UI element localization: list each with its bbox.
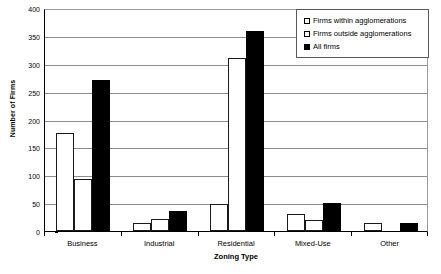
legend-item: All firms — [304, 40, 423, 53]
legend-label: Firms within agglomerations — [313, 17, 406, 25]
legend-swatch-icon — [304, 44, 310, 50]
bar — [400, 223, 418, 231]
bar — [133, 223, 151, 231]
bar — [92, 80, 110, 231]
legend-item: Firms outside agglomerations — [304, 27, 423, 40]
x-tick-label: Business — [67, 239, 97, 248]
bar — [169, 211, 187, 231]
legend-item: Firms within agglomerations — [304, 14, 423, 27]
bar — [56, 133, 74, 231]
x-tick-label: Mixed-Use — [295, 239, 331, 248]
bar — [228, 58, 246, 231]
legend-label: All firms — [313, 43, 340, 51]
y-tick-label: 200 — [14, 117, 40, 124]
x-tick-mark — [198, 232, 199, 236]
bar — [210, 204, 228, 231]
x-tick-label: Industrial — [144, 239, 174, 248]
x-tick-mark — [274, 232, 275, 236]
x-tick-label: Other — [380, 239, 399, 248]
bar — [74, 179, 92, 231]
bar — [246, 31, 264, 231]
y-tick-label: 250 — [14, 89, 40, 96]
x-tick-mark — [121, 232, 122, 236]
x-tick-label: Residential — [217, 239, 254, 248]
bar — [364, 223, 382, 231]
y-tick-label: 150 — [14, 145, 40, 152]
y-tick-label: 0 — [14, 229, 40, 236]
bar — [151, 219, 169, 231]
y-axis-tick-labels: 050100150200250300350400 — [14, 0, 40, 274]
x-tick-mark — [427, 232, 428, 236]
x-axis-title: Zoning Type — [44, 252, 428, 261]
bar — [287, 214, 305, 231]
legend-swatch-icon — [304, 18, 310, 24]
y-tick-label: 350 — [14, 33, 40, 40]
x-tick-mark — [44, 232, 45, 236]
x-tick-mark — [351, 232, 352, 236]
bar-chart: Number of Firms 050100150200250300350400… — [0, 0, 441, 274]
legend: Firms within agglomerationsFirms outside… — [296, 9, 429, 58]
y-tick-label: 300 — [14, 61, 40, 68]
legend-label: Firms outside agglomerations — [313, 30, 411, 38]
y-tick-label: 100 — [14, 173, 40, 180]
bar — [305, 220, 323, 231]
y-tick-label: 400 — [14, 6, 40, 13]
legend-swatch-icon — [304, 31, 310, 37]
bar — [323, 203, 341, 231]
y-tick-label: 50 — [14, 201, 40, 208]
